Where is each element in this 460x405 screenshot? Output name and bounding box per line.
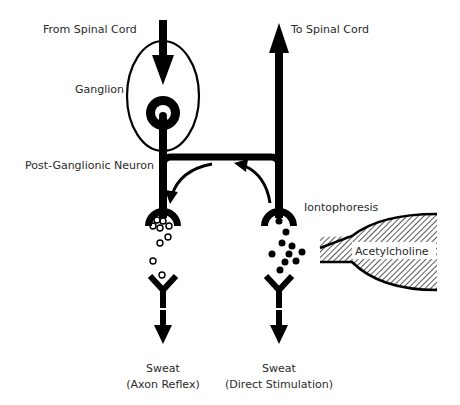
right-sweat-arrow — [270, 310, 288, 344]
axon-branch — [163, 157, 279, 165]
label-from-spinal-cord: From Spinal Cord — [43, 23, 137, 36]
left-sweat-arrow — [154, 310, 172, 344]
label-acetylcholine: Acetylcholine — [355, 245, 429, 258]
label-sweat-axon-reflex-1: Sweat — [146, 362, 180, 375]
sweat-axon-reflex-diagram: From Spinal Cord To Spinal Cord Ganglion… — [0, 0, 460, 405]
acetylcholine-molecules — [269, 218, 306, 274]
label-sweat-axon-reflex-2: (Axon Reflex) — [126, 378, 199, 391]
left-receptor — [150, 276, 176, 308]
label-sweat-direct-1: Sweat — [262, 362, 296, 375]
incoming-arrow — [152, 20, 174, 85]
label-ganglion: Ganglion — [75, 83, 124, 96]
label-to-spinal-cord: To Spinal Cord — [290, 23, 369, 36]
diagram-svg: From Spinal Cord To Spinal Cord Ganglion… — [0, 0, 460, 405]
right-receptor — [266, 276, 292, 308]
label-post-ganglionic-neuron: Post-Ganglionic Neuron — [25, 159, 154, 172]
axon-reflex-curved-arrows — [165, 159, 270, 204]
left-axon — [159, 118, 167, 218]
label-iontophoresis: Iontophoresis — [304, 201, 379, 214]
label-sweat-direct-2: (Direct Stimulation) — [225, 378, 333, 391]
ascending-arrow — [269, 23, 289, 218]
released-vesicles-open — [150, 217, 172, 278]
